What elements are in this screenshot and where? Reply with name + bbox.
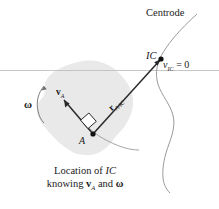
caption-line-2: knowing vA and ω	[0, 177, 170, 194]
point-a-dot	[90, 131, 95, 136]
caption-line1-ic: IC	[105, 165, 116, 176]
caption-line1-prefix: Location of	[54, 165, 105, 176]
caption-line2-conjunction: and	[95, 178, 115, 189]
ic-centrode-diagram: Centrode IC vIC = 0 ω vA rA/IC A Locatio…	[0, 0, 219, 209]
caption-line-1: Location of IC	[0, 164, 170, 177]
ic-point-label: IC	[146, 51, 157, 62]
v-ic-value: = 0	[176, 59, 189, 70]
point-a-label: A	[79, 136, 85, 146]
caption-line2-prefix: knowing	[47, 178, 86, 189]
v-a-subscript: A	[61, 93, 65, 99]
v-ic-equals-zero-label: vIC = 0	[163, 60, 189, 72]
figure-caption: Location of IC knowing vA and ω	[0, 164, 170, 194]
v-a-vector-label: vA	[56, 88, 64, 100]
caption-line2-omega: ω	[116, 178, 124, 189]
v-ic-subscript: IC	[167, 65, 173, 72]
omega-symbol-label: ω	[24, 99, 32, 110]
centrode-label: Centrode	[146, 8, 185, 19]
